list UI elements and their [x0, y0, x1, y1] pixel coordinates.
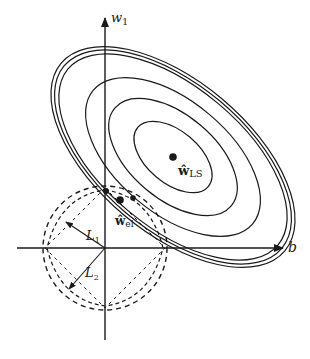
w-ls-label: ŵLS [177, 163, 203, 179]
l1-label: L1 [85, 228, 100, 245]
loss-contours [12, 5, 310, 309]
l2-solution-point [130, 195, 136, 201]
y-axis-label: w1 [111, 10, 128, 27]
w-el-point [116, 196, 124, 204]
l1-solution-point [103, 188, 109, 194]
contour-6 [12, 5, 310, 309]
l2-label: L2 [84, 265, 99, 282]
x-axis-label: b [288, 239, 297, 255]
axes [17, 18, 283, 340]
w-ls-point [169, 153, 177, 161]
regularization-diagram: w1 b ŵLS ŵel L1 L2 [0, 0, 310, 359]
